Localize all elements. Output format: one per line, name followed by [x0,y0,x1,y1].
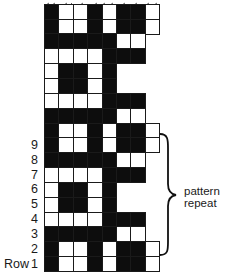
open-cell [58,212,74,228]
filled-cell [44,241,60,257]
filled-cell [73,63,89,79]
filled-cell [116,212,132,228]
filled-cell [58,108,74,124]
filled-cell [102,226,118,242]
filled-cell [102,197,118,213]
open-cell [44,197,60,213]
filled-cell [116,19,132,35]
open-cell [58,93,74,109]
open-cell [102,19,118,35]
open-cell [102,137,118,153]
filled-cell [58,152,74,168]
filled-cell [116,167,132,183]
open-cell [73,167,89,183]
row-label: 9 [24,138,38,152]
open-cell [116,108,132,124]
row-label: 2 [24,242,38,256]
open-cell [58,241,74,257]
filled-cell [102,33,118,49]
filled-cell [87,108,103,124]
open-cell [130,226,146,242]
open-cell [102,256,118,272]
filled-cell [73,152,89,168]
filled-cell [102,152,118,168]
open-cell [87,78,103,94]
filled-cell [87,241,103,257]
open-cell [73,48,89,64]
filled-cell [102,63,118,79]
open-cell [58,48,74,64]
open-cell [44,63,60,79]
filled-cell [130,241,146,257]
filled-cell [102,48,118,64]
filled-cell [116,241,132,257]
open-cell [44,93,60,109]
filled-cell [87,19,103,35]
open-cell [58,256,74,272]
row-label: 8 [24,153,38,167]
filled-cell [130,19,146,35]
open-cell [87,182,103,198]
filled-cell [58,63,74,79]
right-curly-brace-icon [158,132,182,257]
row-word-label: Row [4,257,29,271]
open-cell [58,19,74,35]
filled-cell [130,123,146,139]
open-cell [73,137,89,153]
open-cell [73,256,89,272]
filled-cell [130,212,146,228]
filled-cell [44,137,60,153]
filled-cell [58,182,74,198]
filled-cell [73,226,89,242]
open-cell [87,63,103,79]
open-cell [145,256,161,272]
filled-cell [116,123,132,139]
open-cell [145,4,161,20]
filled-cell [87,4,103,20]
filled-cell [102,108,118,124]
open-cell [102,123,118,139]
repeat-label-line1: pattern [184,185,220,197]
filled-cell [130,48,146,64]
open-cell [44,48,60,64]
filled-cell [116,137,132,153]
pattern-chart: 987654321 Row pattern repeat [0,0,227,275]
filled-cell [44,4,60,20]
filled-cell [130,4,146,20]
filled-cell [102,167,118,183]
pattern-repeat-label: pattern repeat [184,185,220,209]
filled-cell [44,152,60,168]
open-cell [102,4,118,20]
filled-cell [87,33,103,49]
row-label: 7 [24,168,38,182]
row-label: 3 [24,227,38,241]
filled-cell [116,256,132,272]
open-cell [102,241,118,257]
open-cell [44,167,60,183]
row-label: 5 [24,197,38,211]
filled-cell [58,33,74,49]
filled-cell [44,33,60,49]
filled-cell [87,256,103,272]
filled-cell [44,226,60,242]
open-cell [87,167,103,183]
filled-cell [44,123,60,139]
filled-cell [73,33,89,49]
open-cell [58,137,74,153]
repeat-label-line2: repeat [184,197,220,209]
filled-cell [58,226,74,242]
filled-cell [87,123,103,139]
row-label: 6 [24,182,38,196]
filled-cell [44,108,60,124]
open-cell [130,33,146,49]
filled-cell [130,93,146,109]
filled-cell [73,182,89,198]
filled-cell [58,78,74,94]
filled-cell [44,19,60,35]
filled-cell [58,197,74,213]
filled-cell [73,108,89,124]
open-cell [58,4,74,20]
filled-cell [116,93,132,109]
open-cell [87,212,103,228]
filled-cell [87,152,103,168]
